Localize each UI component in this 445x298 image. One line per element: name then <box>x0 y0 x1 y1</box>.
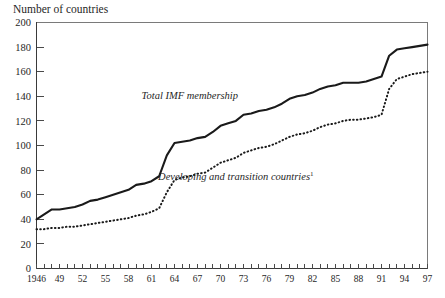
x-tick-label: 49 <box>55 274 65 284</box>
x-tick-label: 70 <box>216 274 226 284</box>
y-tick-label: 160 <box>15 66 31 77</box>
x-tick-label: 61 <box>147 274 157 284</box>
series-label-developing-and-transition-countries: Developing and transition countries1 <box>157 170 314 182</box>
x-tick-label: 85 <box>331 274 341 284</box>
x-tick-label: 79 <box>285 274 295 284</box>
line-chart-canvas: Number of countries 02040608010012014016… <box>0 0 445 298</box>
series-label-text: Total IMF membership <box>142 90 238 101</box>
y-tick-label: 100 <box>15 140 31 151</box>
x-tick-label: 94 <box>400 274 410 284</box>
x-tick-label: 58 <box>124 274 134 284</box>
chart-figure: Number of countries 02040608010012014016… <box>0 0 445 298</box>
y-tick-label: 80 <box>21 165 32 176</box>
y-tick-label: 120 <box>15 116 31 127</box>
plot-frame <box>36 23 428 269</box>
x-tick-label: 52 <box>78 274 88 284</box>
y-tick-label: 140 <box>15 91 31 102</box>
x-tick-label: 88 <box>354 274 364 284</box>
x-tick-label: 64 <box>170 274 180 284</box>
y-axis-title: Number of countries <box>13 3 109 15</box>
y-tick-label: 40 <box>21 214 32 225</box>
series-annotations: Total IMF membershipDeveloping and trans… <box>142 90 314 182</box>
x-tick-label: 1946 <box>27 274 46 284</box>
x-tick-label: 82 <box>308 274 318 284</box>
y-tick-label: 20 <box>21 239 32 250</box>
x-tick-label: 67 <box>193 274 203 284</box>
series-label-total-imf-membership: Total IMF membership <box>142 90 238 101</box>
x-tick-label: 55 <box>101 274 111 284</box>
series-label-text: Developing and transition countries <box>157 171 310 182</box>
x-tick-label: 73 <box>239 274 249 284</box>
series-label-footnote-marker: 1 <box>310 170 314 178</box>
x-tick-label: 76 <box>262 274 272 284</box>
x-axis-ticks: 19464952555861646770737679828588919497 <box>27 264 433 284</box>
x-tick-label: 97 <box>423 274 433 284</box>
y-axis-ticks: 020406080100120140160180200 <box>15 17 43 274</box>
data-series-group <box>37 45 428 230</box>
x-tick-label: 91 <box>377 274 387 284</box>
series-line-total-imf-membership <box>37 45 428 220</box>
y-tick-label: 180 <box>15 42 31 53</box>
y-tick-label: 200 <box>15 17 31 28</box>
y-tick-label: 60 <box>21 189 32 200</box>
